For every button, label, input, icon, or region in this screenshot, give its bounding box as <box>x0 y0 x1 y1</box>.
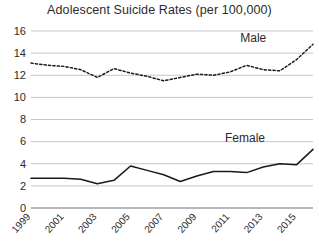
data-series <box>31 44 313 183</box>
x-axis-tick-labels: 199920012003200520072009201120132015 <box>9 211 298 235</box>
y-axis-tick-label: 10 <box>14 91 26 103</box>
x-axis-tick-label: 2003 <box>76 211 99 235</box>
y-axis-tick-label: 8 <box>20 113 26 125</box>
chart-container: Adolescent Suicide Rates (per 100,000) 0… <box>0 0 319 243</box>
series-label-female: Female <box>225 131 265 145</box>
x-axis-tick-label: 2011 <box>209 211 232 235</box>
x-axis-tick-label: 2001 <box>43 211 66 235</box>
y-axis-tick-label: 14 <box>14 47 26 59</box>
x-axis-tick-label: 2015 <box>275 211 298 235</box>
y-axis-tick-labels: 0246810121416 <box>14 25 26 214</box>
gridlines <box>31 31 313 208</box>
x-axis-tick-label: 2013 <box>242 211 265 235</box>
x-axis-tick-label: 2009 <box>175 211 198 235</box>
series-line-female <box>31 149 313 183</box>
y-axis-tick-label: 16 <box>14 25 26 37</box>
chart-plot: 0246810121416 19992001200320052007200920… <box>0 0 319 243</box>
series-label-male: Male <box>240 31 266 45</box>
x-axis-tick-label: 2007 <box>142 211 165 235</box>
y-axis-tick-label: 6 <box>20 135 26 147</box>
series-labels: MaleFemale <box>225 31 267 145</box>
y-axis-tick-label: 12 <box>14 69 26 81</box>
x-axis-tick-label: 2005 <box>109 211 132 235</box>
x-axis-tick-label: 1999 <box>9 211 32 235</box>
y-axis-tick-label: 2 <box>20 180 26 192</box>
y-axis-tick-label: 4 <box>20 158 26 170</box>
